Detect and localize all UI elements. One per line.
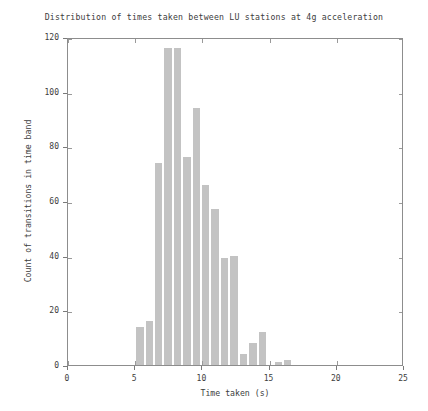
x-tick-mark-top (68, 39, 69, 43)
y-tick-mark-inner-right (399, 258, 403, 259)
y-tick-label: 100 (19, 88, 59, 97)
x-tick-label: 15 (249, 374, 289, 383)
y-tick-mark-inner (68, 148, 72, 149)
x-tick-mark (403, 366, 404, 370)
x-tick-mark (269, 366, 270, 370)
histogram-bar (274, 362, 283, 365)
chart-title: Distribution of times taken between LU s… (0, 12, 428, 22)
x-tick-label: 10 (181, 374, 221, 383)
x-tick-mark (201, 366, 202, 370)
x-tick-mark-top (270, 39, 271, 43)
y-tick-mark-inner-right (399, 94, 403, 95)
x-tick-mark (336, 366, 337, 370)
y-tick-label: 120 (19, 33, 59, 42)
y-tick-label: 60 (19, 197, 59, 206)
x-tick-mark-top (202, 39, 203, 43)
x-tick-mark-inner (337, 361, 338, 365)
x-tick-label: 25 (383, 374, 423, 383)
histogram-bar (145, 321, 154, 365)
histogram-bar (283, 360, 292, 365)
x-tick-mark (134, 366, 135, 370)
y-tick-label: 20 (19, 306, 59, 315)
x-tick-mark-top (337, 39, 338, 43)
histogram-bars (68, 39, 402, 365)
x-tick-mark-inner (135, 361, 136, 365)
histogram-bar (163, 48, 172, 365)
x-tick-mark-inner (68, 361, 69, 365)
histogram-bar (192, 108, 201, 365)
y-tick-mark-inner-right (399, 148, 403, 149)
histogram-bar (248, 343, 257, 365)
y-tick-label: 80 (19, 142, 59, 151)
x-tick-label: 20 (316, 374, 356, 383)
histogram-bar (239, 354, 248, 365)
histogram-bar (258, 332, 267, 365)
histogram-bar (173, 48, 182, 365)
y-tick-mark-inner-right (399, 203, 403, 204)
y-tick-label: 40 (19, 252, 59, 261)
y-tick-mark-inner-right (399, 39, 403, 40)
y-tick-mark-inner (68, 312, 72, 313)
x-tick-mark-top (135, 39, 136, 43)
histogram-bar (135, 327, 144, 365)
histogram-bar (182, 157, 191, 365)
y-tick-mark-inner (68, 258, 72, 259)
histogram-bar (201, 185, 210, 365)
histogram-bar (210, 209, 219, 365)
x-tick-mark-inner (270, 361, 271, 365)
histogram-bar (220, 258, 229, 365)
y-tick-mark-inner (68, 94, 72, 95)
x-tick-mark-inner (202, 361, 203, 365)
plot-area (67, 38, 403, 366)
x-axis-title: Time taken (s) (67, 388, 403, 398)
x-tick-mark (67, 366, 68, 370)
histogram-bar (229, 256, 238, 365)
histogram-bar (154, 163, 163, 365)
x-tick-label: 5 (114, 374, 154, 383)
y-tick-mark-inner-right (399, 312, 403, 313)
y-tick-mark-inner (68, 203, 72, 204)
x-tick-label: 0 (47, 374, 87, 383)
y-tick-label: 0 (19, 361, 59, 370)
histogram-figure: Distribution of times taken between LU s… (0, 0, 428, 411)
